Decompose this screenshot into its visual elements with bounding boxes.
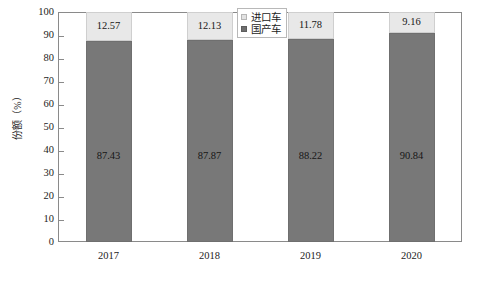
chart-legend[interactable]: 进口车国产车 (237, 8, 287, 38)
bar-group[interactable]: 90.849.16 (389, 12, 435, 242)
stacked-bar-chart: 份额（%） 1009080706050403020100 87.4312.578… (0, 0, 477, 283)
x-tick-label: 2020 (382, 250, 442, 261)
x-axis-tick-labels: 2017201820192020 (58, 250, 462, 270)
bar-value-label: 88.22 (299, 151, 323, 162)
bar-group[interactable]: 87.4312.57 (86, 12, 132, 242)
legend-item[interactable]: 进口车 (241, 11, 281, 23)
y-tick-label: 40 (2, 145, 54, 155)
bar-segment-domestic[interactable]: 90.84 (389, 33, 435, 242)
bar-segment-domestic[interactable]: 87.87 (187, 40, 233, 242)
x-tick-label: 2019 (281, 250, 341, 261)
y-tick-label: 100 (2, 7, 54, 17)
bar-segment-imported[interactable]: 12.13 (187, 12, 233, 40)
bar-group[interactable]: 87.8712.13 (187, 12, 233, 242)
legend-swatch-icon (241, 26, 247, 32)
y-tick-label: 0 (2, 237, 54, 247)
y-tick-label: 30 (2, 168, 54, 178)
legend-item[interactable]: 国产车 (241, 23, 281, 35)
legend-item-label: 国产车 (251, 24, 281, 35)
bar-segment-domestic[interactable]: 87.43 (86, 41, 132, 242)
y-tick-label: 60 (2, 99, 54, 109)
bar-segment-domestic[interactable]: 88.22 (288, 39, 334, 242)
bar-value-label: 90.84 (400, 151, 424, 162)
bars-layer: 87.4312.5787.8712.1388.2211.7890.849.16 (58, 12, 462, 242)
bar-value-label: 12.13 (198, 21, 222, 32)
y-tick-label: 50 (2, 122, 54, 132)
legend-swatch-icon (241, 14, 247, 20)
y-tick-label: 20 (2, 191, 54, 201)
bar-value-label: 87.43 (97, 151, 121, 162)
x-tick-label: 2018 (180, 250, 240, 261)
y-tick-label: 10 (2, 214, 54, 224)
bar-value-label: 11.78 (299, 20, 322, 31)
bar-value-label: 87.87 (198, 151, 222, 162)
bar-value-label: 9.16 (402, 17, 420, 28)
bar-value-label: 12.57 (97, 21, 121, 32)
y-tick-label: 90 (2, 30, 54, 40)
bar-segment-imported[interactable]: 9.16 (389, 12, 435, 33)
bar-segment-imported[interactable]: 12.57 (86, 12, 132, 41)
x-tick-label: 2017 (79, 250, 139, 261)
bar-group[interactable]: 88.2211.78 (288, 12, 334, 242)
bar-segment-imported[interactable]: 11.78 (288, 12, 334, 39)
y-axis-tick-labels: 1009080706050403020100 (0, 0, 54, 283)
y-tick-label: 70 (2, 76, 54, 86)
y-tick-label: 80 (2, 53, 54, 63)
legend-item-label: 进口车 (251, 12, 281, 23)
